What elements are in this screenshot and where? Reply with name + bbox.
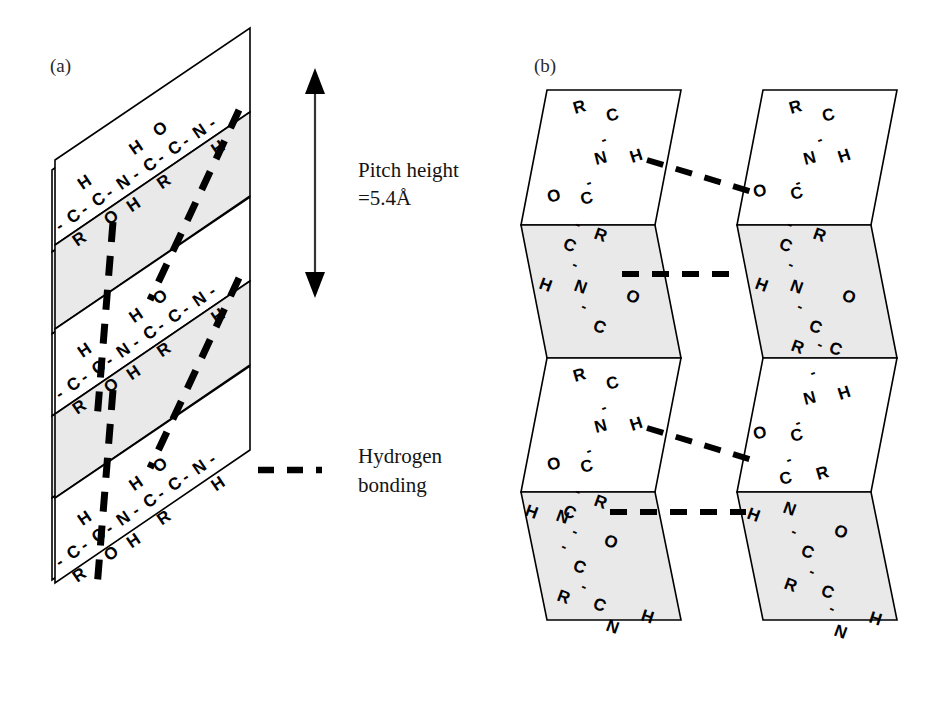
beta-sheet-figure: - C - C - N - C - C - N - H H O — [0, 0, 929, 713]
svg-text:N: N — [832, 621, 850, 643]
hbond-legend-line2: bonding — [358, 473, 427, 497]
panel-a-label: (a) — [50, 55, 71, 77]
panel-b-strand-left: R C - N H - O C - C R - N H - — [521, 90, 681, 638]
figure-root: - C - C - N - C - C - N - H H O — [0, 0, 929, 713]
panel-b: R C - N H - O C - C R - N H - — [521, 55, 897, 643]
pitch-height-line2: =5.4Å — [358, 186, 412, 210]
arrow-head-down — [305, 272, 325, 298]
pitch-height-line1: Pitch height — [358, 158, 459, 182]
pitch-height-arrow — [305, 68, 325, 298]
arrow-head-up — [305, 68, 325, 94]
panel-b-strand-right: R C - N H - O C - C R - N H - C — [737, 90, 897, 643]
panel-b-right-face-1 — [737, 90, 897, 225]
panel-a: - C - C - N - C - C - N - H H O — [38, 28, 250, 591]
panel-b-label: (b) — [534, 55, 556, 77]
hbond-legend-line1: Hydrogen — [358, 444, 442, 468]
